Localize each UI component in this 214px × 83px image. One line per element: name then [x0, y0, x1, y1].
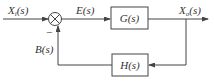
error-label: E(s) — [75, 4, 95, 17]
feedback-block-label: H(s) — [119, 59, 140, 72]
forward-block-label: G(s) — [120, 12, 140, 25]
summing-junction — [49, 13, 62, 26]
minus-sign: − — [46, 26, 52, 38]
feedback-arrow — [58, 26, 112, 65]
feedback-label: B(s) — [35, 43, 54, 56]
output-label: Xo(s) — [178, 4, 201, 18]
output-to-feedback-arrow — [149, 19, 186, 65]
input-label: Xi(s) — [7, 4, 29, 18]
block-diagram: Xi(s) − E(s) G(s) Xo(s) H(s) B(s) — [0, 0, 214, 83]
